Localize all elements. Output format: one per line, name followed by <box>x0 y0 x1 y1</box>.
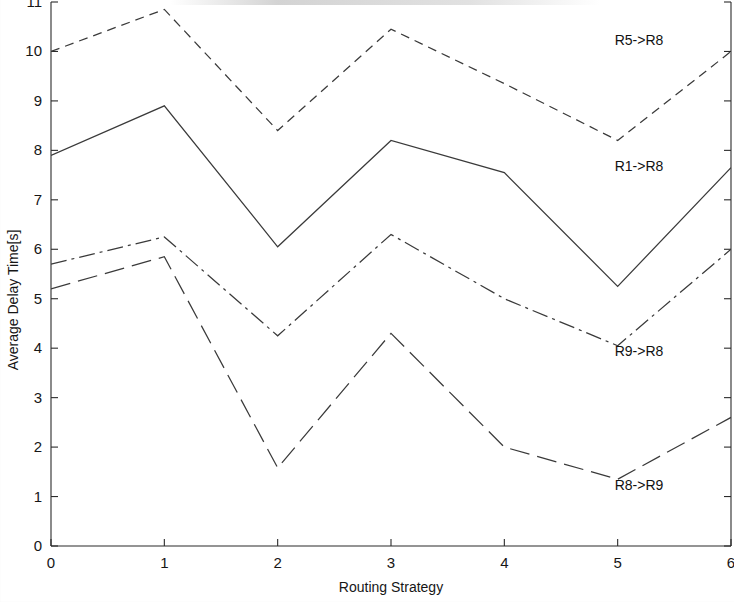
series-label-r5r8: R5->R8 <box>615 32 664 48</box>
y-axis-title: Average Delay Time[s] <box>5 230 21 371</box>
y-tick-label: 11 <box>26 0 42 10</box>
chart-background <box>0 0 734 602</box>
y-tick-label: 6 <box>34 240 42 257</box>
x-tick-label: 2 <box>273 554 281 571</box>
y-tick-label: 4 <box>34 339 42 356</box>
chart-figure: 01234567891011 0123456 R5->R8R1->R8R9->R… <box>0 0 734 602</box>
x-tick-label: 0 <box>47 554 55 571</box>
x-tick-label: 1 <box>160 554 168 571</box>
y-tick-label: 7 <box>34 191 42 208</box>
y-tick-label: 5 <box>34 290 42 307</box>
y-tick-label: 10 <box>25 42 42 59</box>
series-label-r1r8: R1->R8 <box>615 158 664 174</box>
y-tick-label: 0 <box>34 537 42 554</box>
x-tick-label: 6 <box>727 554 734 571</box>
series-label-r8r9: R8->R9 <box>615 477 664 493</box>
x-tick-label: 3 <box>387 554 395 571</box>
y-tick-label: 9 <box>34 92 42 109</box>
y-tick-label: 8 <box>34 141 42 158</box>
y-tick-label: 3 <box>34 389 42 406</box>
x-tick-label: 4 <box>500 554 508 571</box>
y-tick-label: 2 <box>34 438 42 455</box>
line-chart: 01234567891011 0123456 R5->R8R1->R8R9->R… <box>0 0 734 602</box>
x-tick-label: 5 <box>613 554 621 571</box>
x-axis-title: Routing Strategy <box>339 579 443 595</box>
series-label-r9r8: R9->R8 <box>615 343 664 359</box>
y-tick-label: 1 <box>34 488 42 505</box>
